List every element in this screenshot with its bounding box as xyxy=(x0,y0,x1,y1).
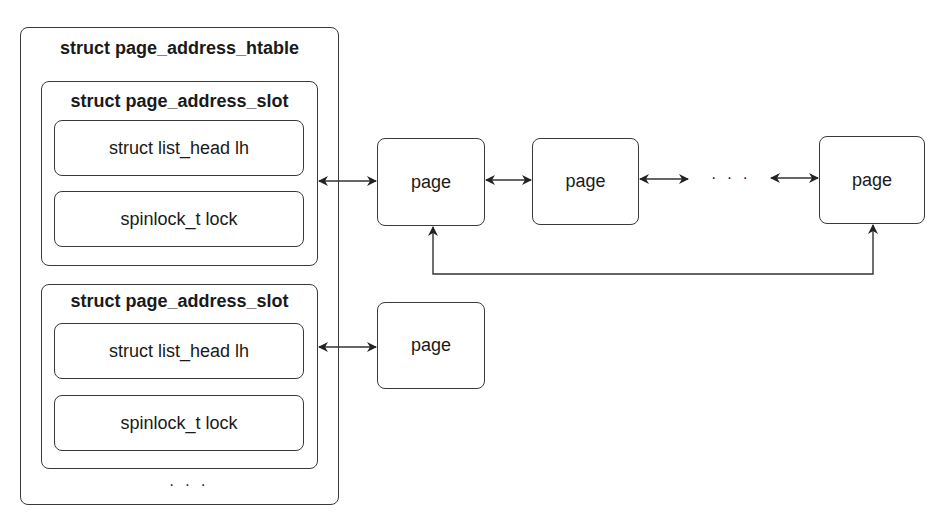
slot-1-field-lock-label: spinlock_t lock xyxy=(120,209,237,230)
chain-1-page-1: page xyxy=(377,138,485,226)
chain-2-page-1-label: page xyxy=(411,335,451,356)
chain-1-page-2: page xyxy=(532,138,639,225)
slot-2-field-list-head-label: struct list_head lh xyxy=(109,341,249,362)
chain-1-page-last: page xyxy=(819,136,925,224)
slot-2-field-lock-label: spinlock_t lock xyxy=(120,413,237,434)
htable-title: struct page_address_htable xyxy=(21,38,338,59)
slot-1-field-list-head: struct list_head lh xyxy=(54,120,304,176)
wraparound-link xyxy=(433,225,873,274)
chain-2-page-1: page xyxy=(377,302,485,389)
slot-2-field-lock: spinlock_t lock xyxy=(54,395,304,451)
chain-1-page-1-label: page xyxy=(411,172,451,193)
slot-1-field-lock: spinlock_t lock xyxy=(54,191,304,247)
chain-1-page-last-label: page xyxy=(852,170,892,191)
chain-1-ellipsis: · · · xyxy=(711,169,751,187)
slot-1-field-list-head-label: struct list_head lh xyxy=(109,138,249,159)
chain-1-page-2-label: page xyxy=(565,171,605,192)
slot-1-title: struct page_address_slot xyxy=(42,91,317,112)
slot-2-field-list-head: struct list_head lh xyxy=(54,323,304,379)
htable-ellipsis: · · · xyxy=(169,476,209,494)
slot-2-title: struct page_address_slot xyxy=(42,291,317,312)
